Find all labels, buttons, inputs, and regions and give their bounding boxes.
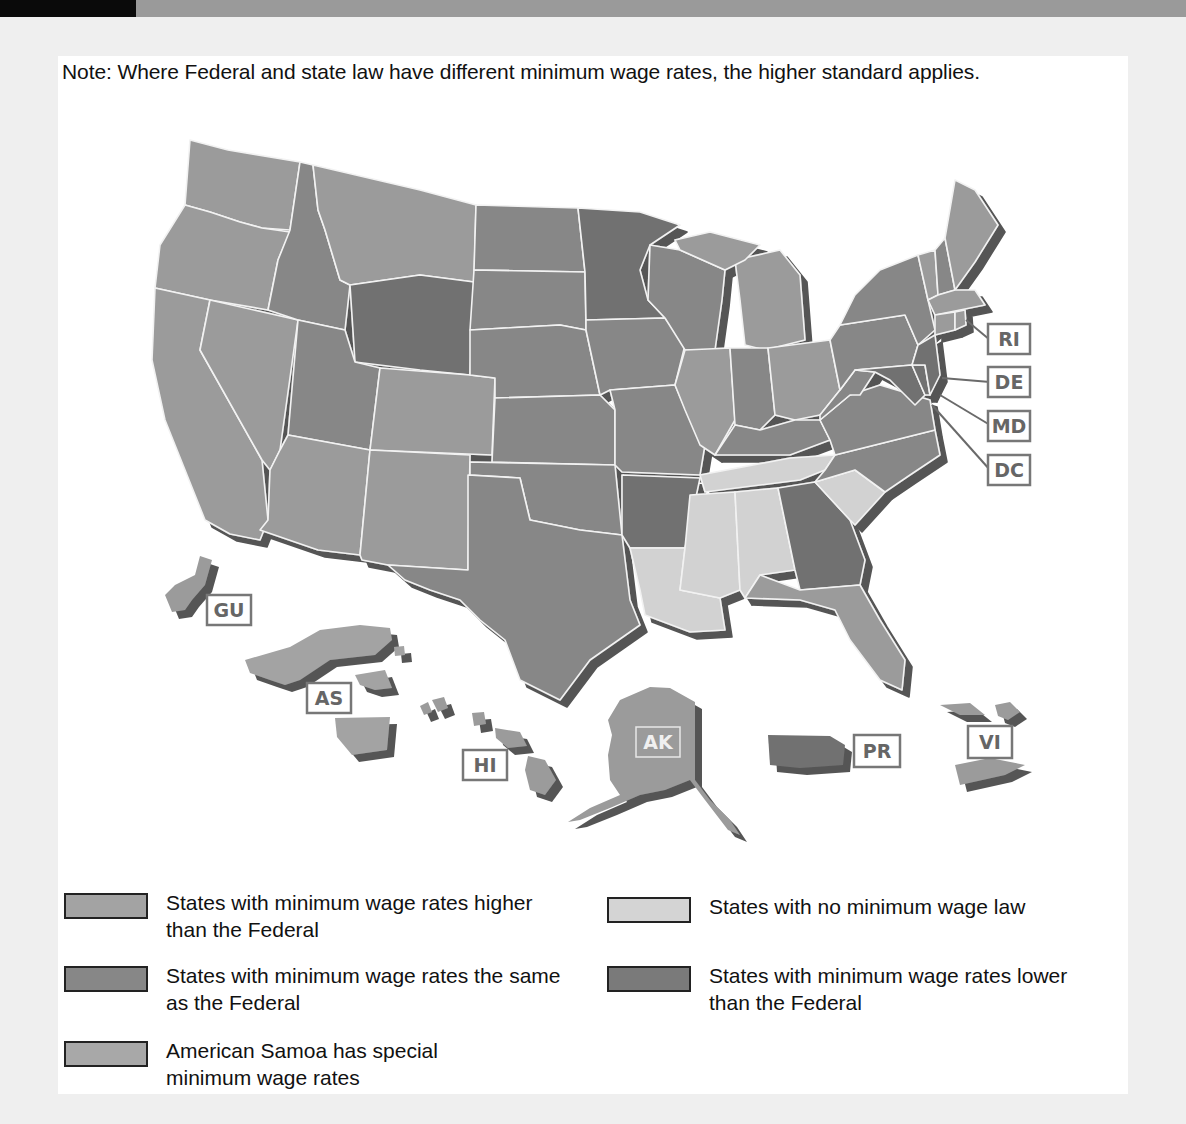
svg-text:MD: MD	[992, 415, 1027, 437]
state-HI-5	[525, 756, 556, 795]
state-MS	[680, 492, 740, 598]
state-ME	[945, 180, 998, 290]
state-IA	[586, 318, 685, 395]
legend-item-none: States with no minimum wage law	[607, 893, 1129, 923]
territory-AS-2	[355, 670, 392, 690]
svg-text:DE: DE	[995, 371, 1024, 393]
state-WY	[350, 275, 474, 375]
state-CT	[935, 312, 955, 335]
legend-item-lower: States with minimum wage rates lower tha…	[607, 962, 1079, 1016]
state-IN	[730, 348, 775, 430]
label-pr: PR	[854, 735, 900, 767]
svg-text:RI: RI	[998, 328, 1020, 350]
svg-text:GU: GU	[213, 599, 244, 621]
label-ri: RI	[988, 324, 1030, 354]
legend-label-samoa: American Samoa has special minimum wage …	[166, 1037, 506, 1091]
leader-de	[942, 378, 990, 382]
svg-text:PR: PR	[863, 740, 892, 762]
label-vi: VI	[968, 726, 1012, 758]
territory-VI-1	[940, 703, 985, 715]
state-HI-1	[420, 702, 432, 715]
territory-VI-3	[955, 758, 1025, 785]
legend-item-same: States with minimum wage rates the same …	[64, 962, 566, 1016]
svg-text:VI: VI	[979, 731, 1001, 753]
legend-label-lower: States with minimum wage rates lower tha…	[709, 962, 1079, 1016]
territory-VI-2	[995, 702, 1020, 720]
state-CO	[370, 368, 495, 455]
legend-label-none: States with no minimum wage law	[709, 893, 1129, 920]
legend-swatch-none	[607, 897, 691, 923]
label-hi: HI	[463, 750, 507, 780]
state-AK	[568, 687, 740, 835]
state-KS	[492, 395, 615, 465]
svg-text:AK: AK	[643, 731, 674, 753]
territory-AS-3	[335, 717, 390, 755]
legend-label-higher: States with minimum wage rates higher th…	[166, 889, 536, 943]
svg-text:AS: AS	[315, 687, 343, 709]
state-MT	[313, 165, 476, 285]
territory-PR	[768, 735, 845, 768]
legend-swatch-same	[64, 966, 148, 992]
territory-GU	[165, 556, 212, 612]
label-as: AS	[307, 683, 351, 713]
leader-dc	[932, 405, 990, 470]
state-HI-3	[472, 712, 486, 726]
legend-item-higher: States with minimum wage rates higher th…	[64, 889, 536, 943]
legend-swatch-samoa	[64, 1041, 148, 1067]
state-FL	[745, 575, 905, 690]
leader-md	[940, 395, 990, 425]
state-MI	[735, 250, 805, 350]
state-ND	[474, 205, 585, 272]
svg-text:DC: DC	[994, 459, 1024, 481]
territory-AS-4	[394, 646, 405, 656]
legend-swatch-lower	[607, 966, 691, 992]
state-SD	[470, 270, 586, 330]
label-md: MD	[988, 411, 1030, 441]
legend-item-samoa: American Samoa has special minimum wage …	[64, 1037, 506, 1091]
leader-ri	[966, 320, 990, 340]
state-NM	[360, 450, 470, 570]
label-de: DE	[988, 367, 1030, 397]
state-RI	[955, 310, 966, 330]
svg-text:HI: HI	[474, 754, 497, 776]
legend-swatch-higher	[64, 893, 148, 919]
state-HI-4	[495, 728, 527, 748]
us-minimum-wage-map: RI DE MD DC GU AS HI AK PR VI	[0, 0, 1186, 1124]
label-gu: GU	[207, 595, 251, 625]
label-dc: DC	[988, 455, 1030, 485]
legend-label-same: States with minimum wage rates the same …	[166, 962, 566, 1016]
state-HI-2	[432, 697, 448, 712]
